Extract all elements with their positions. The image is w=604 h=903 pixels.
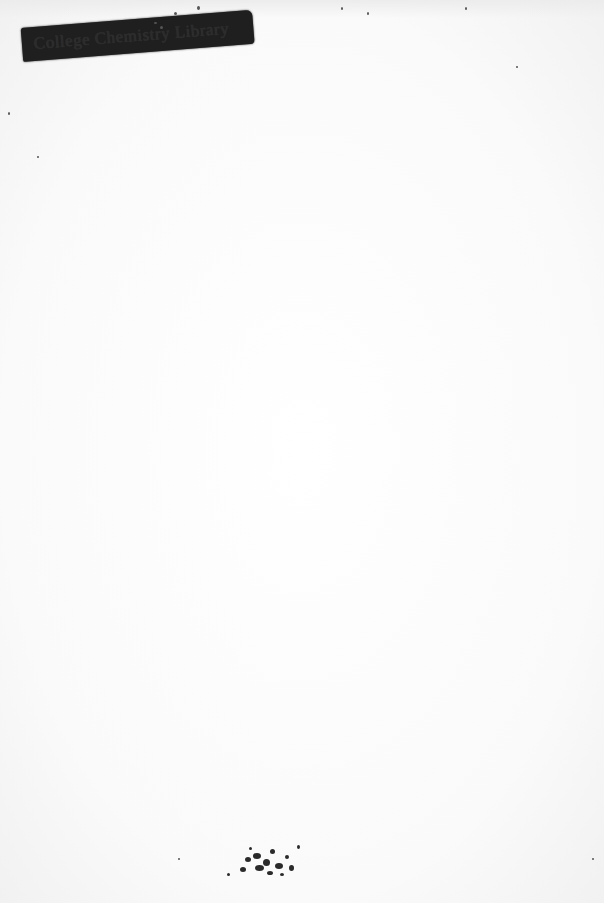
- speck: [367, 12, 369, 15]
- ink-smudge: [225, 845, 310, 885]
- library-stamp-text: College Chemistry Library: [33, 19, 230, 54]
- speck: [160, 26, 163, 29]
- speck: [154, 22, 157, 24]
- speck: [174, 12, 177, 15]
- scanned-page: College Chemistry Library: [0, 0, 604, 903]
- speck: [465, 7, 467, 10]
- top-edge-shadow: [0, 0, 604, 18]
- speck: [178, 858, 180, 860]
- speck: [341, 7, 343, 10]
- speck: [197, 6, 200, 10]
- speck: [592, 858, 594, 860]
- speck: [8, 112, 10, 115]
- speck: [37, 156, 39, 158]
- speck: [516, 66, 518, 68]
